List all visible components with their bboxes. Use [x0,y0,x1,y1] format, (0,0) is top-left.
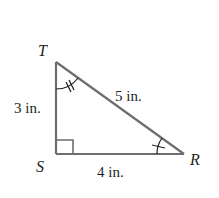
vertex-label-t: T [38,42,48,59]
vertex-label-r: R [189,151,200,168]
right-angle-mark-s [56,140,73,154]
side-label-ts: 3 in. [14,100,41,116]
triangle-diagram: T S R 3 in. 5 in. 4 in. [0,0,219,198]
side-label-sr: 4 in. [97,164,124,180]
vertex-label-s: S [36,158,44,175]
side-tr [56,62,184,154]
side-label-tr: 5 in. [115,88,142,104]
